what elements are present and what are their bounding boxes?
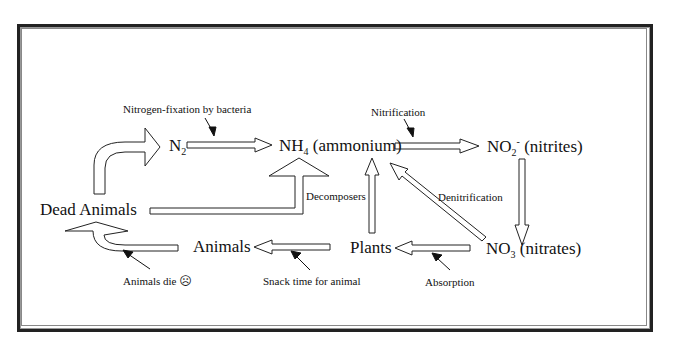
label-decomposers: Decomposers [306, 191, 366, 202]
arrow-animals-die [65, 222, 178, 251]
arrow-decomposers [150, 158, 329, 214]
arrows-layer [0, 0, 673, 343]
arrow-nh4-to-no2 [395, 139, 479, 153]
arrow-n2-to-nh4 [187, 138, 272, 152]
node-no2: NO2- (nitrites) [487, 138, 583, 155]
arrow-dead-to-n2 [94, 128, 160, 194]
label-nitrification: Nitrification [371, 107, 425, 118]
node-dead-animals: Dead Animals [40, 201, 137, 218]
node-nh4: NH4 (ammonium) [279, 137, 402, 154]
label-absorption: Absorption [425, 277, 475, 288]
label-animals-die: Animals die ☹ [123, 275, 192, 287]
arrow-no2-to-no3 [515, 159, 529, 245]
node-no3: NO3 (nitrates) [486, 240, 581, 257]
sad-face-icon: ☹ [179, 274, 192, 288]
label-denitrification: Denitrification [438, 192, 503, 203]
node-plants: Plants [350, 239, 392, 256]
node-n2: N2 [169, 137, 186, 154]
label-nitrogen-fixation: Nitrogen-fixation by bacteria [123, 104, 251, 115]
arrow-plants-to-nh4 [365, 158, 379, 233]
node-animals: Animals [193, 238, 251, 255]
label-snack-time: Snack time for animal [263, 276, 360, 287]
